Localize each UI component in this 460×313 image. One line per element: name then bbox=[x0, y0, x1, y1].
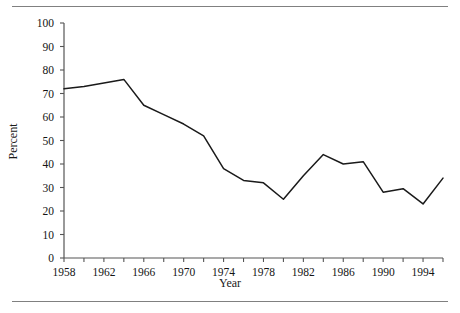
y-tick-label: 80 bbox=[28, 64, 54, 76]
chart-axes bbox=[64, 23, 443, 258]
y-tick-label: 20 bbox=[28, 205, 54, 217]
x-axis-title: Year bbox=[0, 276, 460, 291]
y-tick-label: 60 bbox=[28, 111, 54, 123]
chart-figure: 0102030405060708090100 19581962196619701… bbox=[0, 0, 460, 313]
y-tick-label: 10 bbox=[28, 229, 54, 241]
y-tick-label: 30 bbox=[28, 182, 54, 194]
chart-tick-marks bbox=[60, 23, 443, 262]
y-tick-label: 40 bbox=[28, 158, 54, 170]
y-tick-label: 70 bbox=[28, 88, 54, 100]
y-tick-label: 90 bbox=[28, 41, 54, 53]
y-tick-label: 0 bbox=[28, 252, 54, 264]
y-axis-title: Percent bbox=[6, 112, 21, 172]
data-series-line bbox=[64, 79, 443, 204]
y-tick-label: 100 bbox=[28, 17, 54, 29]
y-tick-label: 50 bbox=[28, 135, 54, 147]
